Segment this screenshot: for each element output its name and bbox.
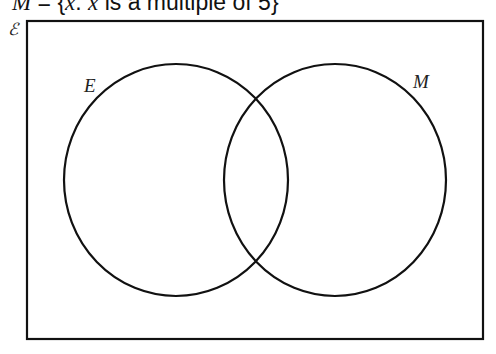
- set-m-label: M: [412, 71, 430, 92]
- universal-set-symbol: ℰ: [8, 20, 20, 39]
- universal-set-box: [27, 21, 483, 339]
- venn-diagram: ℰ E M: [0, 0, 496, 354]
- set-e-label: E: [83, 75, 96, 96]
